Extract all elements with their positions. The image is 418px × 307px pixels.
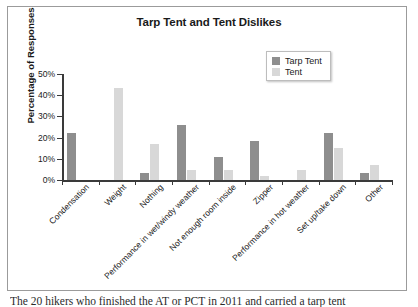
bar-group	[135, 74, 172, 180]
bar	[177, 125, 186, 180]
bar	[67, 133, 76, 180]
y-tick-label: 10%	[38, 154, 55, 164]
x-tick-label: Nothing	[137, 182, 165, 210]
bar	[214, 157, 223, 180]
bar	[114, 88, 123, 180]
bar	[250, 141, 259, 180]
y-tick-label: 50%	[38, 69, 55, 79]
bar	[334, 148, 343, 180]
bar	[150, 144, 159, 180]
legend: Tarp Tent Tent	[266, 51, 331, 81]
figure: Tarp Tent and Tent Dislikes Percentage o…	[0, 0, 418, 307]
bar	[324, 133, 333, 180]
legend-item: Tarp Tent	[272, 55, 322, 66]
bar	[187, 170, 196, 180]
x-tick-label: Other	[363, 182, 385, 204]
y-axis-title: Percentage of Responses	[25, 0, 36, 136]
bar	[360, 173, 369, 180]
bar	[224, 170, 233, 180]
x-tick-label: Zipper	[251, 182, 275, 206]
legend-label-tent: Tent	[285, 67, 302, 77]
bar	[370, 165, 379, 180]
chart-title: Tarp Tent and Tent Dislikes	[0, 16, 418, 28]
bar-group	[282, 74, 319, 180]
bar	[297, 170, 306, 180]
plot-area: 0%10%20%30%40%50%	[62, 74, 392, 180]
x-tick-label: Weight	[102, 182, 128, 208]
bar-series-container	[62, 74, 392, 180]
y-tick-label: 30%	[38, 111, 55, 121]
legend-swatch-tent	[272, 68, 280, 76]
bar-group	[99, 74, 136, 180]
bar-group	[172, 74, 209, 180]
bar-group	[355, 74, 392, 180]
bar	[260, 176, 269, 180]
bar-group	[62, 74, 99, 180]
y-tick-label: 0%	[43, 175, 55, 185]
legend-item: Tent	[272, 66, 322, 77]
bar	[140, 173, 149, 180]
bar-group	[209, 74, 246, 180]
x-tick	[392, 180, 393, 185]
y-tick-label: 40%	[38, 90, 55, 100]
bar-group	[319, 74, 356, 180]
x-tick-label: Not enough room inside	[167, 182, 238, 253]
legend-swatch-tarp-tent	[272, 57, 280, 65]
x-axis-labels: CondensationWeightNothingPerformance in …	[62, 182, 392, 282]
bar-group	[245, 74, 282, 180]
y-tick-label: 20%	[38, 133, 55, 143]
figure-caption: The 20 hikers who finished the AT or PCT…	[10, 295, 410, 307]
legend-label-tarp-tent: Tarp Tent	[285, 56, 322, 66]
